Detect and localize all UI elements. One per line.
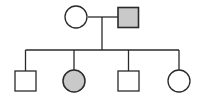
child-2-affected-female-symbol — [63, 70, 85, 92]
father-affected-male-symbol — [118, 8, 139, 28]
child-3-unaffected-male-symbol — [118, 71, 139, 91]
pedigree-chart — [0, 0, 198, 99]
mother-unaffected-female-symbol — [65, 6, 87, 28]
child-1-unaffected-male-symbol — [15, 71, 36, 91]
child-4-unaffected-female-symbol — [168, 70, 190, 92]
